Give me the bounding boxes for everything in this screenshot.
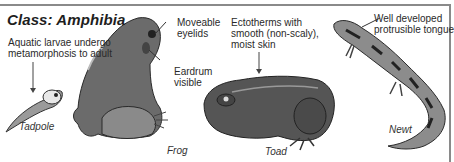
tadpole-label: Tadpole: [19, 121, 54, 132]
skin-annotation-line-3: moist skin: [231, 39, 319, 50]
tongue-annotation-line-1: Well developed: [374, 13, 454, 24]
larvae-annotation: Aquatic larvae undergo metamorphosis to …: [8, 37, 112, 59]
toad-label: Toad: [265, 146, 287, 157]
tongue-annotation-line-2: protrusible tongue: [374, 24, 454, 35]
skin-annotation: Ectotherms with smooth (non-scaly), mois…: [231, 17, 319, 50]
eardrum-annotation-line-2: visible: [174, 77, 212, 88]
larvae-annotation-line-1: Aquatic larvae undergo: [8, 37, 112, 48]
larvae-annotation-line-2: metamorphosis to adult: [8, 48, 112, 59]
eyelids-annotation-line-2: eyelids: [177, 28, 220, 39]
newt-label: Newt: [389, 124, 412, 135]
frog-label: Frog: [167, 145, 188, 156]
eyelids-annotation: Moveable eyelids: [177, 17, 220, 39]
eyelids-annotation-line-1: Moveable: [177, 17, 220, 28]
diagram-title: Class: Amphibia: [7, 11, 125, 28]
eardrum-annotation-line-1: Eardrum: [174, 66, 212, 77]
toad-illustration: [204, 52, 334, 150]
frog-illustration: [74, 18, 169, 139]
eardrum-annotation: Eardrum visible: [174, 66, 212, 88]
skin-annotation-line-1: Ectotherms with: [231, 17, 319, 28]
skin-annotation-line-2: smooth (non-scaly),: [231, 28, 319, 39]
tongue-annotation: Well developed protrusible tongue: [374, 13, 454, 35]
